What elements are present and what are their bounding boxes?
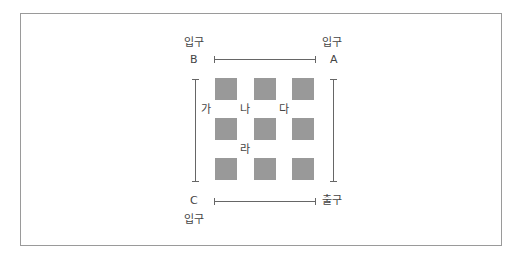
grid-square-r3c2 xyxy=(254,158,276,180)
top-edge-line xyxy=(214,59,316,60)
grid-square-r1c2 xyxy=(254,78,276,100)
left-edge-cap-top xyxy=(192,79,199,80)
grid-square-r3c1 xyxy=(215,158,237,180)
zone-label-ra: 라 xyxy=(240,144,250,156)
right-edge-cap-top xyxy=(330,79,337,80)
top-edge-cap-left xyxy=(214,56,215,63)
grid-square-r2c2 xyxy=(254,118,276,140)
letter-b: B xyxy=(190,54,198,66)
right-edge-line xyxy=(333,79,334,182)
grid-square-r3c3 xyxy=(292,158,314,180)
grid-square-r1c1 xyxy=(215,78,237,100)
grid-square-r1c3 xyxy=(292,78,314,100)
grid-square-r2c1 xyxy=(215,118,237,140)
bottom-edge-cap-left xyxy=(214,198,215,205)
gate-label-a: 입구 xyxy=(322,37,342,49)
bottom-edge-line xyxy=(214,201,316,202)
gate-label-b: 입구 xyxy=(184,37,204,49)
bottom-edge-cap-right xyxy=(315,198,316,205)
letter-c: C xyxy=(190,195,198,207)
exit-label: 출구 xyxy=(322,195,342,207)
zone-label-da: 다 xyxy=(279,104,289,116)
left-edge-cap-bottom xyxy=(192,181,199,182)
zone-label-na: 나 xyxy=(240,104,250,116)
zone-label-ga: 가 xyxy=(201,104,211,116)
top-edge-cap-right xyxy=(315,56,316,63)
left-edge-line xyxy=(195,79,196,182)
gate-label-c: 입구 xyxy=(184,214,204,226)
right-edge-cap-bottom xyxy=(330,181,337,182)
letter-a: A xyxy=(330,54,338,66)
grid-square-r2c3 xyxy=(292,118,314,140)
